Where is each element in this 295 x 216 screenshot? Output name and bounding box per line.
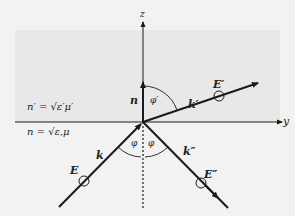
reflected-wave-label: k″	[183, 146, 196, 157]
refraction-angle-label: φ′	[150, 96, 158, 105]
y-axis-label: y	[283, 116, 289, 127]
incidence-angle-arc	[118, 147, 141, 157]
diagram-canvas: z y n′ = √ε′μ′ n = √ε,μ n k k′ k″ E E′ E…	[0, 0, 295, 216]
z-axis-label: z	[140, 10, 145, 19]
upper-medium-index: n′ = √ε′μ′	[27, 102, 73, 112]
refracted-wave-label: k′	[188, 99, 199, 110]
refracted-field-label: E′	[213, 79, 224, 90]
reflected-ray-arrow	[205, 185, 218, 198]
reflection-angle-label: φ	[148, 139, 154, 148]
incident-field-label: E	[70, 165, 78, 176]
normal-vector-label: n	[130, 95, 138, 106]
reflected-field-label: E″	[204, 169, 217, 180]
incidence-angle-label: φ	[131, 139, 137, 148]
lower-medium-index: n = √ε,μ	[27, 127, 70, 137]
incident-wave-label: k	[96, 150, 104, 161]
reflection-angle-arc	[145, 147, 168, 157]
